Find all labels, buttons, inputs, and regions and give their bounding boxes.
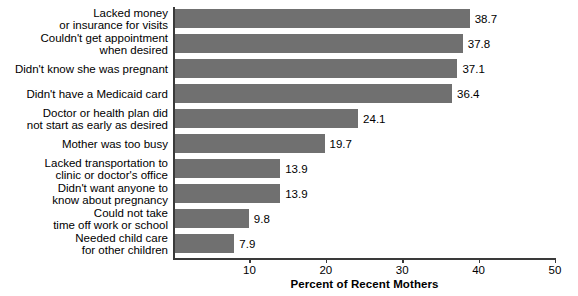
x-axis-tick-label: 30 xyxy=(396,264,409,276)
bar xyxy=(174,34,463,53)
bar xyxy=(174,109,358,128)
category-label: Could not take time off work or school xyxy=(0,207,168,232)
bar-row: 37.8 xyxy=(174,34,556,53)
x-axis-line xyxy=(173,258,556,260)
category-label: Didn't want anyone to know about pregnan… xyxy=(0,182,168,207)
x-axis-tick-label: 10 xyxy=(243,264,256,276)
category-label: Needed child care for other children xyxy=(0,232,168,257)
bar-chart: Lacked money or insurance for visitsCoul… xyxy=(0,0,578,296)
bar-row: 13.9 xyxy=(174,184,556,203)
bar xyxy=(174,9,470,28)
x-axis-tick-label: 20 xyxy=(319,264,332,276)
bar xyxy=(174,134,325,153)
bar-row: 24.1 xyxy=(174,109,556,128)
x-axis-title: Percent of Recent Mothers xyxy=(173,278,556,290)
bar-value-label: 9.8 xyxy=(249,213,270,225)
bar-row: 38.7 xyxy=(174,9,556,28)
bar-series: 38.737.837.136.424.119.713.913.99.87.9 xyxy=(174,9,556,259)
bar-value-label: 13.9 xyxy=(280,188,307,200)
x-axis-tick xyxy=(555,258,556,263)
x-axis-tick xyxy=(479,258,480,263)
bar xyxy=(174,234,234,253)
bar-value-label: 13.9 xyxy=(280,163,307,175)
plot-area: Lacked money or insurance for visitsCoul… xyxy=(0,0,578,296)
bar-value-label: 37.1 xyxy=(457,63,484,75)
x-axis-tick xyxy=(249,258,250,263)
bar-value-label: 24.1 xyxy=(358,113,385,125)
bar-value-label: 7.9 xyxy=(234,238,255,250)
category-label: Couldn't get appointment when desired xyxy=(0,32,168,57)
x-axis-tick-label: 50 xyxy=(549,264,562,276)
bar xyxy=(174,59,457,78)
category-label: Lacked money or insurance for visits xyxy=(0,7,168,32)
bar-value-label: 19.7 xyxy=(325,138,352,150)
bar xyxy=(174,159,280,178)
bar-value-label: 38.7 xyxy=(470,13,497,25)
bar-row: 7.9 xyxy=(174,234,556,253)
bar-value-label: 37.8 xyxy=(463,38,490,50)
bar-row: 19.7 xyxy=(174,134,556,153)
bar-row: 36.4 xyxy=(174,84,556,103)
bar xyxy=(174,84,452,103)
x-axis-tick-label: 40 xyxy=(472,264,485,276)
category-label: Didn't have a Medicaid card xyxy=(0,88,168,100)
bar-row: 37.1 xyxy=(174,59,556,78)
category-label: Mother was too busy xyxy=(0,138,168,150)
category-label: Didn't know she was pregnant xyxy=(0,63,168,75)
bar-value-label: 36.4 xyxy=(452,88,479,100)
x-axis-tick xyxy=(402,258,403,263)
category-label: Doctor or health plan did not start as e… xyxy=(0,107,168,132)
bar-row: 13.9 xyxy=(174,159,556,178)
x-axis-tick xyxy=(326,258,327,263)
y-axis-line xyxy=(173,7,175,259)
bar-row: 9.8 xyxy=(174,209,556,228)
category-axis-labels: Lacked money or insurance for visitsCoul… xyxy=(0,9,168,259)
bar xyxy=(174,209,249,228)
bar xyxy=(174,184,280,203)
category-label: Lacked transportation to clinic or docto… xyxy=(0,157,168,182)
